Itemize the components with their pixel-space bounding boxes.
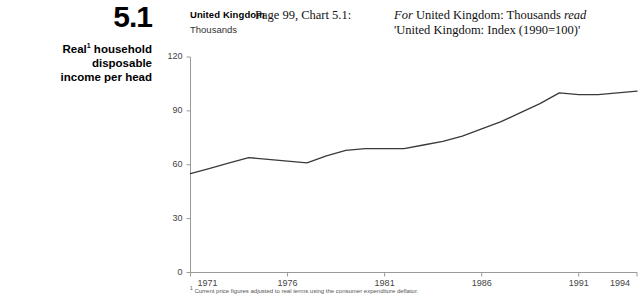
x-tick-label-3: 1986	[462, 278, 502, 288]
chart-plot-area: 0306090120197119761981198619911994	[0, 0, 641, 297]
footnote-text: Current price figures adjusted to real t…	[193, 288, 418, 294]
x-tick-label-5: 1994	[600, 278, 640, 288]
x-tick-label-4: 1991	[559, 278, 599, 288]
x-axis-ticks	[191, 273, 638, 277]
y-tick-label-0: 0	[157, 267, 183, 277]
chart-footnote: 1 Current price figures adjusted to real…	[190, 288, 418, 294]
y-tick-label-1: 30	[157, 213, 183, 223]
data-series-line	[191, 91, 638, 174]
x-tick-label-2: 1981	[365, 278, 405, 288]
x-tick-label-1: 1976	[268, 278, 308, 288]
y-axis-ticks	[187, 57, 191, 273]
line-chart-svg	[0, 0, 641, 297]
y-tick-label-3: 90	[157, 105, 183, 115]
x-tick-label-0: 1971	[188, 278, 228, 288]
y-tick-label-2: 60	[157, 159, 183, 169]
y-tick-label-4: 120	[157, 51, 183, 61]
